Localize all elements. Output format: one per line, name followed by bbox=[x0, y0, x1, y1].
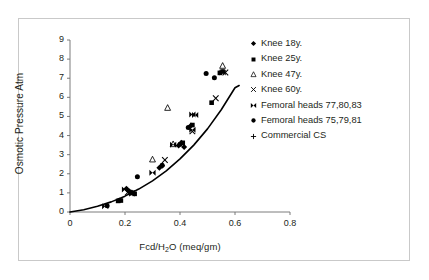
triangle-open-icon bbox=[246, 67, 261, 82]
chart-legend: Knee 18y.Knee 25y.Knee 47y.Knee 60y.Femo… bbox=[246, 36, 411, 144]
y-tick-label: 5 bbox=[48, 110, 64, 120]
bowtie-icon bbox=[246, 98, 261, 113]
chart-figure: Osmotic Pressure Atm Fcd/H2O (meq/gm) 01… bbox=[0, 0, 429, 280]
legend-item-label: Femoral heads 75,79,81 bbox=[261, 116, 362, 125]
legend-item-label: Knee 18y. bbox=[261, 39, 302, 48]
circle-icon bbox=[246, 113, 261, 128]
x-axis-label-prefix: Fcd/H bbox=[139, 241, 165, 252]
legend-item-label: Knee 60y. bbox=[261, 85, 302, 94]
marker-square bbox=[252, 57, 256, 61]
x-tick-label: 0.8 bbox=[278, 218, 302, 228]
marker-circle bbox=[117, 198, 122, 203]
data-points bbox=[102, 63, 228, 210]
y-tick-label: 2 bbox=[48, 168, 64, 178]
marker-diamond bbox=[251, 41, 256, 46]
legend-item-label: Commercial CS bbox=[261, 131, 326, 140]
legend-item: Knee 18y. bbox=[246, 36, 411, 51]
marker-cross bbox=[251, 87, 256, 92]
marker-square bbox=[190, 123, 195, 128]
y-tick-label: 0 bbox=[48, 206, 64, 216]
y-tick-label: 1 bbox=[48, 187, 64, 197]
plus-icon bbox=[246, 128, 261, 143]
legend-item-label: Femoral heads 77,80,83 bbox=[261, 101, 362, 110]
x-tick-label: 0 bbox=[58, 218, 82, 228]
y-tick-label: 6 bbox=[48, 91, 64, 101]
series-points bbox=[125, 70, 228, 196]
legend-item: Femoral heads 75,79,81 bbox=[246, 113, 411, 128]
series-points bbox=[105, 71, 217, 208]
legend-item: Knee 47y. bbox=[246, 67, 411, 82]
marker-triangle-open bbox=[165, 105, 171, 111]
x-axis-label-suffix: O (meq/gm) bbox=[169, 241, 221, 252]
x-tick-label: 0.4 bbox=[168, 218, 192, 228]
y-axis-label: Osmotic Pressure Atm bbox=[14, 64, 25, 184]
x-tick-label: 0.2 bbox=[113, 218, 137, 228]
x-axis-label-subscript: 2 bbox=[165, 246, 169, 253]
marker-circle bbox=[105, 203, 110, 208]
marker-circle bbox=[204, 71, 209, 76]
marker-cross bbox=[213, 95, 219, 101]
legend-item: Knee 25y. bbox=[246, 51, 411, 66]
diamond-icon bbox=[246, 36, 261, 51]
marker-circle bbox=[251, 118, 255, 122]
y-tick-label: 4 bbox=[48, 130, 64, 140]
legend-item-label: Knee 25y. bbox=[261, 54, 302, 63]
marker-circle bbox=[178, 142, 183, 147]
legend-item-label: Knee 47y. bbox=[261, 70, 302, 79]
marker-bowtie bbox=[251, 103, 256, 108]
marker-circle bbox=[212, 75, 217, 80]
marker-triangle-open bbox=[150, 156, 156, 162]
series-points bbox=[123, 123, 194, 196]
marker-cross bbox=[162, 157, 168, 163]
legend-item: Femoral heads 77,80,83 bbox=[246, 98, 411, 113]
y-tick-label: 3 bbox=[48, 149, 64, 159]
series-points bbox=[116, 69, 225, 203]
marker-triangle-open bbox=[251, 72, 256, 77]
legend-item: Commercial CS bbox=[246, 128, 411, 143]
marker-triangle-open bbox=[220, 63, 226, 69]
marker-bowtie bbox=[149, 170, 155, 176]
marker-circle bbox=[186, 125, 191, 130]
x-axis-label: Fcd/H2O (meq/gm) bbox=[70, 241, 290, 252]
y-tick-label: 9 bbox=[48, 34, 64, 44]
marker-circle bbox=[160, 163, 165, 168]
square-icon bbox=[246, 51, 261, 66]
marker-plus bbox=[251, 133, 256, 138]
cross-icon bbox=[246, 82, 261, 97]
x-tick-label: 0.6 bbox=[223, 218, 247, 228]
y-tick-label: 7 bbox=[48, 72, 64, 82]
y-tick-label: 8 bbox=[48, 53, 64, 63]
marker-circle bbox=[135, 174, 140, 179]
legend-item: Knee 60y. bbox=[246, 82, 411, 97]
series-points bbox=[102, 69, 226, 209]
